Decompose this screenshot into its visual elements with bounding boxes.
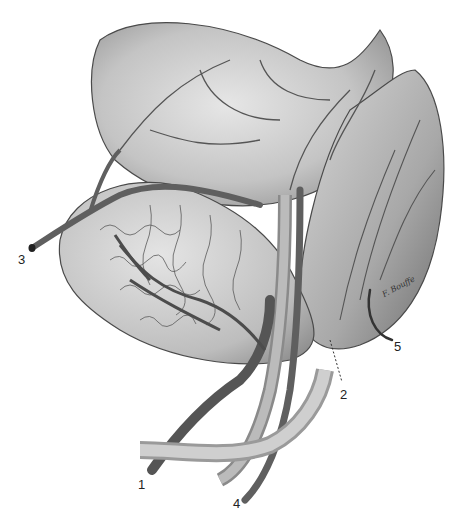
label-2: 2: [340, 388, 347, 401]
label-1: 1: [138, 478, 145, 491]
label-5: 5: [394, 340, 401, 353]
label-3: 3: [18, 253, 25, 266]
anatomy-drawing: [0, 0, 463, 522]
label-4: 4: [233, 497, 240, 510]
illustration-canvas: 1 2 3 4 5 F. Bouffe: [0, 0, 463, 522]
